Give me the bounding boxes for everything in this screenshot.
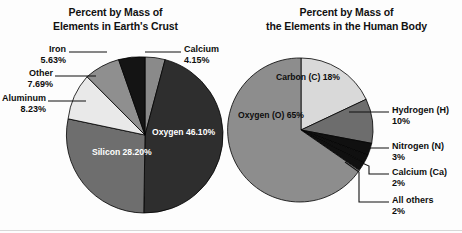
label-all-others-value: 2% <box>392 206 434 217</box>
label-oxygen-name: Oxygen (O) <box>238 110 284 120</box>
label-calcium-name: Calcium (Ca) <box>392 167 447 177</box>
label-other: Other 7.69% <box>0 68 53 90</box>
label-aluminum-value: 8.23% <box>0 104 46 115</box>
label-oxygen-value: 65% <box>287 110 304 120</box>
label-all-others-name: All others <box>392 195 434 205</box>
pie-slice-silicon <box>66 119 145 213</box>
label-carbon-value: 18% <box>323 72 340 82</box>
label-calcium: Calcium 4.15% <box>184 44 219 66</box>
label-aluminum-name: Aluminum <box>2 93 46 103</box>
chart-human-body: Percent by Mass of the Elements in the H… <box>231 0 462 233</box>
label-iron-value: 5.63% <box>8 55 66 66</box>
label-other-name: Other <box>29 68 53 78</box>
label-hydrogen-value: 10% <box>392 116 449 127</box>
label-nitrogen-name: Nitrogen (N) <box>392 141 444 151</box>
label-nitrogen-value: 3% <box>392 152 444 163</box>
figure-baseline-divider <box>0 230 462 231</box>
label-all-others: All others 2% <box>392 195 434 217</box>
label-iron-name: Iron <box>49 44 66 54</box>
label-oxygen-name: Oxygen <box>152 127 184 137</box>
label-calcium-value: 2% <box>392 178 447 189</box>
label-calcium-value: 4.15% <box>184 55 219 66</box>
label-carbon-name: Carbon (C) <box>276 72 320 82</box>
label-oxygen: Oxygen 46.10% <box>152 127 215 138</box>
label-hydrogen-name: Hydrogen (H) <box>392 105 449 115</box>
label-iron: Iron 5.63% <box>8 44 66 66</box>
pie-svg-earths-crust <box>0 0 231 233</box>
figure-page: Percent by Mass of Elements in Earth's C… <box>0 0 462 233</box>
label-silicon: Silicon 28.20% <box>92 147 152 158</box>
label-oxygen: Oxygen (O) 65% <box>238 110 304 121</box>
label-other-value: 7.69% <box>0 79 53 90</box>
label-carbon: Carbon (C) 18% <box>276 72 340 83</box>
label-aluminum: Aluminum 8.23% <box>0 93 46 115</box>
label-nitrogen: Nitrogen (N) 3% <box>392 141 444 163</box>
label-hydrogen: Hydrogen (H) 10% <box>392 105 449 127</box>
label-silicon-value: 28.20% <box>123 147 152 157</box>
label-calcium-name: Calcium <box>184 44 219 54</box>
chart-earths-crust: Percent by Mass of Elements in Earth's C… <box>0 0 231 233</box>
label-silicon-name: Silicon <box>92 147 120 157</box>
label-oxygen-value: 46.10% <box>186 127 215 137</box>
label-calcium: Calcium (Ca) 2% <box>392 167 447 189</box>
